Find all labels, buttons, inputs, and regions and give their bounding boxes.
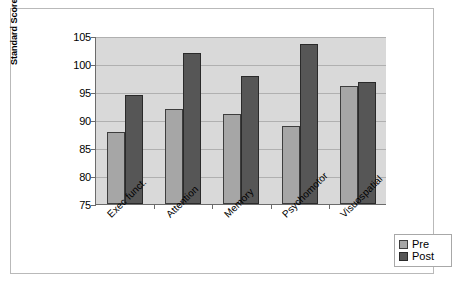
legend-item-post[interactable]: Post [399,251,447,262]
y-axis-tick-label: 75 [51,199,91,211]
x-axis-tick-mark [271,204,272,209]
legend-swatch-post-icon [399,252,408,261]
y-axis-tick-label: 95 [51,87,91,99]
y-axis-tick-mark [91,205,96,206]
bar-group [96,37,154,204]
x-axis-tick-mark [329,204,330,209]
y-axis-tick-label: 90 [51,115,91,127]
chart-legend: Pre Post [394,234,452,267]
bar-pre[interactable] [282,126,300,204]
bar-group [154,37,212,204]
chart-page-frame: Standard Score 1051009590858075 Exec fun… [10,8,434,274]
y-axis-tick-label: 85 [51,143,91,155]
y-axis-tick-label: 105 [51,31,91,43]
y-axis-title: Standard Score [9,0,19,65]
legend-swatch-pre-icon [399,240,408,249]
bar-pre[interactable] [223,114,241,204]
y-axis-tick-label: 80 [51,171,91,183]
legend-item-pre[interactable]: Pre [399,239,447,250]
legend-label-pre: Pre [412,239,429,250]
legend-label-post: Post [412,251,434,262]
bar-pre[interactable] [165,109,183,204]
bar-pre[interactable] [340,86,358,204]
x-axis-tick-mark [154,204,155,209]
x-axis-tick-mark [212,204,213,209]
bar-group [212,37,270,204]
y-axis-tick-labels: 1051009590858075 [47,37,91,204]
bar-post[interactable] [183,53,201,204]
y-axis-tick-label: 100 [51,59,91,71]
bar-post[interactable] [241,76,259,204]
